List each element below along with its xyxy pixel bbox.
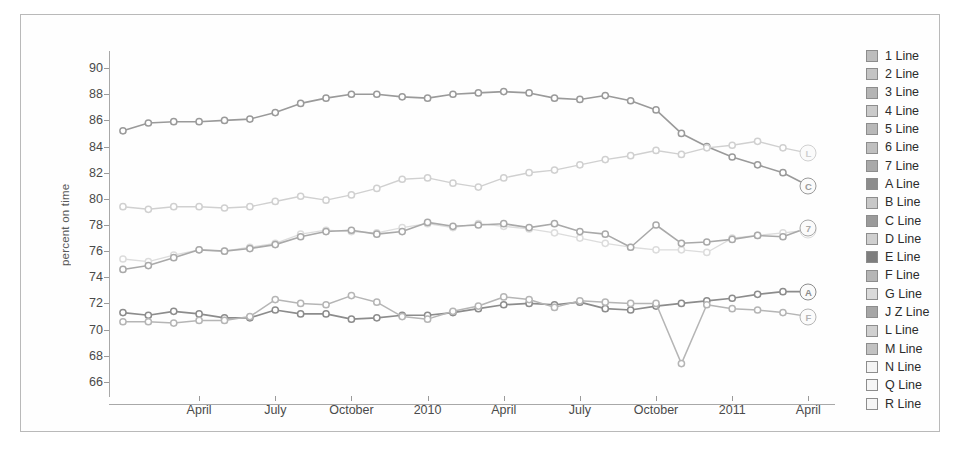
data-point [551,230,557,236]
end-label-7: 7 [800,219,817,236]
legend-item[interactable]: M Line [866,340,958,358]
data-point [628,98,634,104]
legend-swatch-icon [866,50,878,62]
series-lines [109,55,835,395]
legend-swatch-icon [866,361,878,373]
legend-swatch-icon [866,306,878,318]
data-point [551,304,557,310]
data-point [602,231,608,237]
legend-item-label: 4 Line [885,105,919,118]
legend-item[interactable]: G Line [866,285,958,303]
data-point [374,299,380,305]
data-point [551,95,557,101]
legend-item[interactable]: 1 Line [866,47,958,65]
legend-item[interactable]: A Line [866,175,958,193]
data-point [501,302,507,308]
legend-item-label: 3 Line [885,86,919,99]
legend-swatch-icon [866,123,878,135]
x-tick-label: April [796,403,821,417]
data-point [704,249,710,255]
legend-item[interactable]: 4 Line [866,102,958,120]
legend-item-label: 7 Line [885,160,919,173]
data-point [628,307,634,313]
data-point [526,170,532,176]
legend-item[interactable]: L Line [866,321,958,339]
data-point [272,109,278,115]
data-point [653,222,659,228]
legend-item-label: E Line [885,251,920,264]
x-tick-mark [351,396,352,401]
legend-item-label: C Line [885,215,921,228]
data-point [754,291,760,297]
legend-item[interactable]: E Line [866,248,958,266]
y-axis-label: percent on time [59,165,75,285]
x-tick-label: July [264,403,286,417]
data-point [348,227,354,233]
data-point [577,228,583,234]
data-point [145,120,151,126]
x-tick-label: October [329,403,373,417]
data-point [247,313,253,319]
legend-swatch-icon [866,379,878,391]
data-point [196,204,202,210]
legend-item-label: F Line [885,269,920,282]
data-point [196,311,202,317]
y-tick-label: 88 [89,87,103,101]
legend-item[interactable]: 7 Line [866,157,958,175]
legend-item[interactable]: B Line [866,193,958,211]
x-tick-mark [199,396,200,401]
data-point [602,92,608,98]
legend-item[interactable]: J Z Line [866,303,958,321]
data-point [399,176,405,182]
legend-item[interactable]: 5 Line [866,120,958,138]
data-point [501,175,507,181]
chart-frame: percent on time 666870727476788082848688… [20,14,940,432]
data-point [729,295,735,301]
data-point [780,145,786,151]
series-c-line [120,89,808,186]
legend-item[interactable]: Q Line [866,376,958,394]
data-point [374,185,380,191]
data-point [323,197,329,203]
legend-item-label: B Line [885,196,920,209]
legend-swatch-icon [866,87,878,99]
data-point [298,234,304,240]
legend-item-label: 5 Line [885,123,919,136]
data-point [196,247,202,253]
data-point [551,167,557,173]
data-point [323,95,329,101]
data-point [653,247,659,253]
data-point [120,310,126,316]
data-point [526,90,532,96]
data-point [475,90,481,96]
legend-item[interactable]: N Line [866,358,958,376]
y-tick-label: 70 [89,323,103,337]
data-point [120,128,126,134]
legend-item[interactable]: C Line [866,212,958,230]
data-point [120,319,126,325]
data-point [450,91,456,97]
y-tick-label: 68 [89,349,103,363]
data-point [754,307,760,313]
legend-swatch-icon [866,160,878,172]
data-point [628,300,634,306]
legend-item[interactable]: D Line [866,230,958,248]
data-point [678,361,684,367]
data-point [475,184,481,190]
data-point [171,204,177,210]
data-point [653,147,659,153]
y-tick-label: 72 [89,296,103,310]
plot-area: 66687072747678808284868890 AprilJulyOcto… [109,55,835,395]
legend-item[interactable]: F Line [866,267,958,285]
legend-item-label: L Line [885,324,919,337]
data-point [272,307,278,313]
legend-swatch-icon [866,325,878,337]
legend-item[interactable]: 3 Line [866,84,958,102]
legend-item[interactable]: R Line [866,395,958,413]
data-point [780,170,786,176]
legend-item[interactable]: 6 Line [866,138,958,156]
data-point [678,130,684,136]
legend-item[interactable]: 2 Line [866,65,958,83]
data-point [780,289,786,295]
data-point [424,219,430,225]
